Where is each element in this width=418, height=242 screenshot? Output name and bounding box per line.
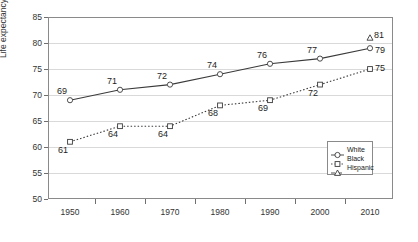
grid-line (49, 95, 392, 96)
y-tick-mark (44, 173, 48, 174)
legend-marker-icon (331, 163, 344, 171)
legend-marker-icon (331, 145, 344, 153)
legend-marker-icon (331, 154, 344, 162)
data-label: 77 (307, 46, 317, 55)
data-label: 71 (107, 77, 117, 86)
grid-line (49, 121, 392, 122)
x-tick-mark (295, 199, 296, 204)
data-label: 76 (257, 51, 267, 60)
x-tick-mark (95, 199, 96, 204)
y-tick-label: 85 (2, 13, 42, 22)
y-tick-label: 55 (2, 169, 42, 178)
data-label: 72 (157, 72, 167, 81)
data-label: 74 (207, 61, 217, 70)
y-tick-mark (44, 147, 48, 148)
data-label: 64 (108, 130, 118, 139)
y-tick-mark (44, 121, 48, 122)
x-tick-label: 1990 (248, 208, 292, 217)
x-tick-mark (345, 199, 346, 204)
data-label: 75 (375, 64, 385, 73)
x-tick-label: 1980 (198, 208, 242, 217)
x-tick-mark (245, 199, 246, 204)
x-tick-label: 1970 (148, 208, 192, 217)
x-tick-label: 2010 (348, 208, 392, 217)
y-axis-label: Life expectancy in years (0, 0, 8, 58)
y-tick-mark (44, 43, 48, 44)
x-tick-label: 2000 (298, 208, 342, 217)
data-label: 81 (374, 31, 384, 40)
x-tick-mark (195, 199, 196, 204)
y-tick-label: 75 (2, 65, 42, 74)
legend-item-hispanic[interactable]: Hispanic (331, 163, 369, 171)
y-tick-mark (44, 17, 48, 18)
legend-item-label: White (347, 146, 365, 153)
y-tick-label: 80 (2, 39, 42, 48)
legend-item-label: Hispanic (347, 164, 374, 171)
y-tick-label: 65 (2, 117, 42, 126)
y-tick-label: 60 (2, 143, 42, 152)
data-label: 64 (158, 130, 168, 139)
y-tick-mark (44, 69, 48, 70)
x-tick-label: 1960 (98, 208, 142, 217)
data-label: 69 (258, 104, 268, 113)
y-tick-mark (44, 95, 48, 96)
data-label: 79 (375, 46, 385, 55)
y-tick-mark (44, 199, 48, 200)
y-tick-label: 70 (2, 91, 42, 100)
data-label: 69 (57, 87, 67, 96)
data-label: 61 (58, 146, 68, 155)
legend-item-white[interactable]: White (331, 145, 369, 153)
life-expectancy-line-chart: Life expectancy in years 505560657075808… (0, 0, 418, 242)
x-tick-label: 1950 (48, 208, 92, 217)
legend-item-label: Black (347, 155, 364, 162)
grid-line (49, 43, 392, 44)
x-tick-mark (145, 199, 146, 204)
data-label: 68 (208, 109, 218, 118)
grid-line (49, 69, 392, 70)
legend: WhiteBlackHispanic (327, 141, 373, 175)
y-tick-label: 50 (2, 195, 42, 204)
legend-item-black[interactable]: Black (331, 154, 369, 162)
data-label: 72 (308, 89, 318, 98)
